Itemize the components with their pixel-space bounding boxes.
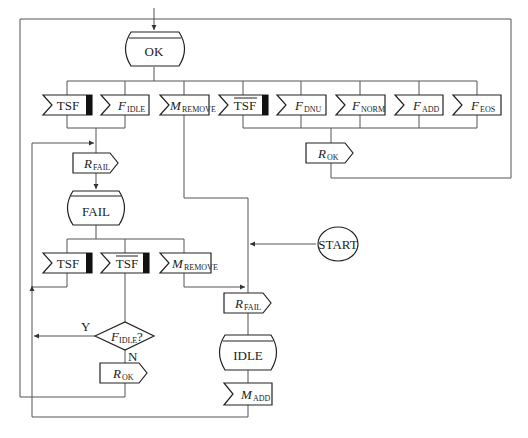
state-ok: OK [126,32,185,66]
fail-input-m-remove: M REMOVE [160,253,218,273]
svg-text:DNU: DNU [304,105,322,114]
ok-input-tsf: TSF [43,95,92,115]
svg-text:REMOVE: REMOVE [182,105,216,114]
output-r-fail-2: R FAIL [224,293,271,313]
svg-text:FAIL: FAIL [82,204,110,219]
ok-input-f-norm: F NORM [336,95,385,115]
svg-text:FAIL: FAIL [244,303,261,312]
svg-text:M: M [171,256,184,271]
decision-no-label: N [128,349,138,364]
svg-text:F: F [117,98,127,113]
svg-text:EOS: EOS [480,105,495,114]
svg-text:R: R [112,366,121,381]
ok-input-m-remove: M REMOVE [160,95,216,115]
svg-text:IDLE: IDLE [233,348,263,363]
svg-text:IDLE: IDLE [127,105,145,114]
ok-input-f-idle: F IDLE [101,95,149,115]
svg-text:R: R [234,296,243,311]
state-label: OK [145,44,164,59]
svg-text:TSF: TSF [116,256,138,271]
svg-text:ADD: ADD [422,105,440,114]
svg-text:START: START [318,237,357,252]
idle-input-m-add: M ADD [224,383,272,405]
ok-input-f-dnu: F DNU [277,95,326,115]
svg-text:R: R [317,146,326,161]
decision-yes-label: Y [81,319,91,334]
svg-text:ADD: ADD [253,394,271,403]
state-fail: FAIL [68,191,125,225]
svg-text:F: F [351,98,361,113]
decision-f-idle: F IDLE ? Y N [81,319,154,364]
svg-text:REMOVE: REMOVE [184,263,218,272]
svg-text:F: F [470,98,480,113]
output-r-fail-1: R FAIL [73,153,118,173]
svg-text:F: F [412,98,422,113]
svg-text:IDLE: IDLE [119,336,137,345]
state-idle: IDLE [220,335,277,370]
output-r-ok-decision: R OK [100,363,147,383]
svg-text:?: ? [137,329,143,344]
ok-input-f-eos: F EOS [453,95,501,115]
svg-text:F: F [294,98,304,113]
sdl-state-diagram: OK TSF F IDLE M REMOVE TSF F DNU F NORM … [0,0,528,438]
fail-input-tsf: TSF [43,253,92,273]
svg-text:TSF: TSF [57,256,79,271]
fail-input-tsf-bar: TSF [101,253,149,273]
svg-text:TSF: TSF [234,98,256,113]
svg-text:NORM: NORM [361,105,385,114]
svg-text:R: R [83,156,92,171]
svg-text:OK: OK [327,153,339,162]
output-r-ok-right: R OK [306,143,353,163]
svg-text:M: M [169,98,182,113]
ok-input-f-add: F ADD [395,95,443,115]
svg-text:OK: OK [122,373,134,382]
start-terminal: START [318,227,358,261]
ok-input-tsf-bar: TSF [219,95,268,115]
svg-text:FAIL: FAIL [93,163,110,172]
svg-text:TSF: TSF [57,98,79,113]
svg-text:M: M [240,387,253,402]
